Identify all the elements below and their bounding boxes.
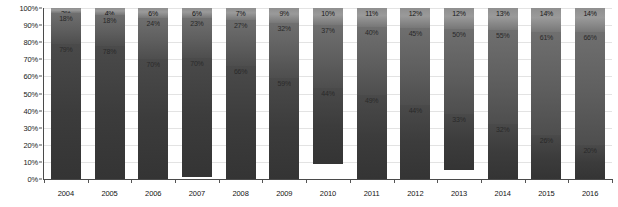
bar-segment-middle[interactable]: 66% xyxy=(575,32,605,145)
bar-column[interactable]: 7%27%66% xyxy=(226,8,256,179)
bar-segment-top[interactable]: 7% xyxy=(226,8,256,20)
bar-segment-bottom[interactable]: 78% xyxy=(95,46,125,179)
x-axis-tick-mark xyxy=(394,180,395,183)
x-axis: 2004200520062007200820092010201120122013… xyxy=(44,180,612,207)
bar-segment-bottom[interactable]: 26% xyxy=(531,135,561,179)
y-axis-tick-mark xyxy=(39,127,42,128)
bar-segment-top[interactable]: 12% xyxy=(444,8,474,29)
bar-segment-value-label: 23% xyxy=(190,18,203,27)
bar-segment-top[interactable]: 4% xyxy=(95,8,125,15)
bar-segment-value-label: 44% xyxy=(409,105,422,114)
y-axis-tick-mark xyxy=(39,110,42,111)
bar-column[interactable]: 11%40%49% xyxy=(357,8,387,179)
bar-column[interactable]: 13%55%32% xyxy=(488,8,518,179)
x-axis-tick-mark xyxy=(437,180,438,183)
bar-column[interactable]: 3%18%79% xyxy=(51,8,81,179)
bar-segment-top[interactable]: 11% xyxy=(357,8,387,27)
bar-column[interactable]: 6%23%70% xyxy=(182,8,212,179)
bar-segment-value-label: 13% xyxy=(496,8,509,17)
bar-segment-value-label: 66% xyxy=(234,66,247,75)
y-axis-tick-label: 100% xyxy=(20,4,38,13)
bar-segment-value-label: 12% xyxy=(409,8,422,17)
bar-segment-middle[interactable]: 61% xyxy=(531,32,561,135)
bar-segment-bottom[interactable]: 44% xyxy=(400,105,430,180)
bar-segment-value-label: 6% xyxy=(148,8,158,17)
x-axis-tick-mark xyxy=(525,180,526,183)
bar-segment-bottom[interactable]: 59% xyxy=(269,78,299,179)
bar-segment-value-label: 11% xyxy=(365,8,378,17)
bar-segment-bottom[interactable]: 20% xyxy=(575,145,605,179)
bar-segment-top[interactable]: 13% xyxy=(488,8,518,30)
y-axis-tick-mark xyxy=(39,76,42,77)
bar-segment-bottom[interactable]: 70% xyxy=(138,59,168,179)
bar-segment-value-label: 49% xyxy=(365,95,378,104)
bar-column[interactable]: 12%45%44% xyxy=(400,8,430,179)
bar-segment-bottom[interactable]: 33% xyxy=(444,114,474,170)
x-axis-tick-label: 2012 xyxy=(400,180,430,198)
x-axis-tick-label: 2013 xyxy=(444,180,474,198)
bar-segment-value-label: 40% xyxy=(365,27,378,36)
y-axis-tick-mark xyxy=(39,93,42,94)
bar-segment-middle[interactable]: 45% xyxy=(400,28,430,104)
bar-segment-value-label: 66% xyxy=(583,32,596,41)
y-axis-tick-label: 30% xyxy=(24,123,38,132)
bar-column[interactable]: 10%37%44% xyxy=(313,8,343,179)
bar-segment-top[interactable]: 10% xyxy=(313,8,343,25)
bar-column[interactable]: 12%50%33% xyxy=(444,8,474,179)
bar-segment-bottom[interactable]: 79% xyxy=(51,44,81,179)
bar-segment-middle[interactable]: 37% xyxy=(313,25,343,88)
x-axis-tick-mark xyxy=(350,180,351,183)
bar-segment-value-label: 18% xyxy=(59,13,72,22)
bar-segment-top[interactable]: 6% xyxy=(138,8,168,18)
x-axis-tick-mark xyxy=(306,180,307,183)
bar-segment-middle[interactable]: 50% xyxy=(444,29,474,115)
bar-segment-middle[interactable]: 18% xyxy=(95,15,125,46)
bar-segment-bottom[interactable]: 44% xyxy=(313,88,343,163)
bar-segment-value-label: 12% xyxy=(452,8,465,17)
bar-segment-value-label: 20% xyxy=(583,145,596,154)
y-axis-tick-mark xyxy=(39,59,42,60)
y-axis-tick-mark xyxy=(39,144,42,145)
y-axis: 0%10%20%30%40%50%60%70%80%90%100% xyxy=(0,8,42,180)
x-axis-tick-mark xyxy=(262,180,263,183)
y-axis-tick-label: 0% xyxy=(28,175,38,184)
x-axis-tick-label: 2011 xyxy=(357,180,387,198)
bar-segment-value-label: 32% xyxy=(496,124,509,133)
y-axis-tick-mark xyxy=(39,161,42,162)
bar-column[interactable]: 14%61%26% xyxy=(531,8,561,179)
x-axis-tick-label: 2005 xyxy=(95,180,125,198)
bar-segment-middle[interactable]: 23% xyxy=(182,18,212,57)
bar-segment-top[interactable]: 14% xyxy=(531,8,561,32)
bar-segment-top[interactable]: 12% xyxy=(400,8,430,28)
bar-segment-value-label: 70% xyxy=(190,58,203,67)
x-axis-tick-label: 2015 xyxy=(531,180,561,198)
bar-segment-value-label: 70% xyxy=(147,59,160,68)
bar-segment-value-label: 50% xyxy=(452,29,465,38)
y-axis-tick-mark xyxy=(39,25,42,26)
bar-segment-value-label: 7% xyxy=(236,8,246,17)
bar-segment-bottom[interactable]: 66% xyxy=(226,66,256,179)
bar-column[interactable]: 9%32%59% xyxy=(269,8,299,179)
x-axis-tick-label: 2004 xyxy=(51,180,81,198)
bar-segment-middle[interactable]: 18% xyxy=(51,13,81,44)
bar-segment-middle[interactable]: 24% xyxy=(138,18,168,59)
bar-segment-middle[interactable]: 55% xyxy=(488,30,518,124)
bar-segment-middle[interactable]: 32% xyxy=(269,23,299,78)
bar-segment-top[interactable]: 9% xyxy=(269,8,299,23)
bar-segment-top[interactable]: 6% xyxy=(182,8,212,18)
bar-segment-value-label: 79% xyxy=(59,44,72,53)
bar-column[interactable]: 14%66%20% xyxy=(575,8,605,179)
y-axis-tick-label: 50% xyxy=(24,89,38,98)
bar-segment-middle[interactable]: 27% xyxy=(226,20,256,66)
bar-segment-bottom[interactable]: 49% xyxy=(357,95,387,179)
bar-segment-bottom[interactable]: 70% xyxy=(182,58,212,178)
bar-segment-value-label: 26% xyxy=(540,135,553,144)
x-axis-tick-mark xyxy=(612,180,613,183)
x-axis-tick-label: 2008 xyxy=(226,180,256,198)
x-axis-tick-mark xyxy=(175,180,176,183)
bar-segment-middle[interactable]: 40% xyxy=(357,27,387,95)
bar-segment-top[interactable]: 14% xyxy=(575,8,605,32)
bar-segment-bottom[interactable]: 32% xyxy=(488,124,518,179)
bar-column[interactable]: 6%24%70% xyxy=(138,8,168,179)
bar-column[interactable]: 4%18%78% xyxy=(95,8,125,179)
